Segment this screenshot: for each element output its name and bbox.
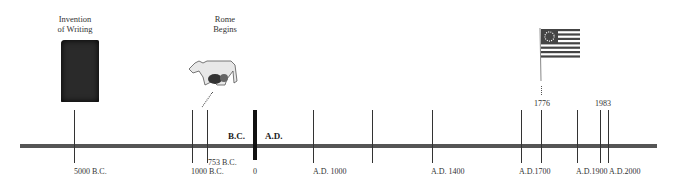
she-wolf-icon [187, 55, 247, 90]
tick-label-2000ad: A.D.2000 [609, 167, 641, 176]
tick-2000ad [608, 110, 609, 163]
era-label-bc: B.C. [228, 131, 245, 141]
tick-1700ad [521, 110, 522, 163]
date-label-753bc: 753 B.C. [208, 158, 237, 167]
event-label-rome-line1: Rome [205, 14, 245, 24]
us-flag-icon [539, 26, 581, 56]
date-label-1776: 1776 [534, 99, 550, 108]
event-label-rome-line2: Begins [205, 24, 245, 34]
rome-connector-line [202, 92, 213, 107]
tick-label-1900ad: A.D.1900 [576, 167, 608, 176]
event-label-rome: Rome Begins [205, 14, 245, 34]
flag-connector-line [541, 86, 542, 95]
tick-1000ad [313, 110, 314, 163]
tick-1400ad [432, 110, 433, 163]
tick-label-1400ad: A.D. 1400 [431, 167, 465, 176]
tick-1200ad [372, 110, 373, 163]
tick-label-1700ad: A.D.1700 [519, 167, 551, 176]
tick-label-5000bc: 5000 B.C. [74, 167, 107, 176]
event-label-writing-line2: of Writing [40, 24, 110, 34]
tick-1900ad [577, 110, 578, 163]
era-label-ad: A.D. [265, 131, 283, 141]
clay-tablet-icon [61, 40, 99, 102]
tick-1983 [600, 110, 601, 163]
tick-zero [253, 110, 257, 160]
event-label-writing: Invention of Writing [40, 14, 110, 34]
tick-label-zero: 0 [253, 167, 257, 176]
tick-753bc [207, 110, 208, 163]
tick-label-1000bc: 1000 B.C. [191, 167, 224, 176]
event-label-writing-line1: Invention [40, 14, 110, 24]
timeline-axis [20, 144, 657, 148]
tick-label-1000ad: A.D. 1000 [313, 167, 347, 176]
tick-1776 [541, 110, 542, 163]
tick-1000bc [192, 110, 193, 163]
date-label-1983: 1983 [595, 99, 611, 108]
tick-5000bc [74, 110, 75, 163]
